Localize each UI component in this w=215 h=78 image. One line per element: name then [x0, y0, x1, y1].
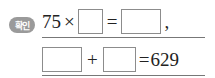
answer-box-multiplier[interactable] — [78, 9, 103, 34]
equation-row-2: + = 629 — [42, 46, 179, 73]
times-sign: × — [61, 11, 78, 33]
underline-row-1 — [42, 37, 205, 38]
answer-box-addend-1[interactable] — [42, 47, 82, 72]
comma: , — [161, 11, 169, 33]
equals-sign: = — [103, 11, 122, 33]
equation-row-1: 75 × = , — [42, 8, 169, 35]
answer-box-product[interactable] — [121, 9, 161, 34]
underline-row-2 — [42, 75, 205, 76]
answer-box-addend-2[interactable] — [103, 47, 136, 72]
operand-75: 75 — [42, 11, 61, 33]
equals-sign-2: = — [136, 49, 151, 71]
check-badge: 확인 — [9, 17, 35, 33]
result-629: 629 — [150, 49, 179, 71]
plus-sign: + — [82, 49, 103, 71]
